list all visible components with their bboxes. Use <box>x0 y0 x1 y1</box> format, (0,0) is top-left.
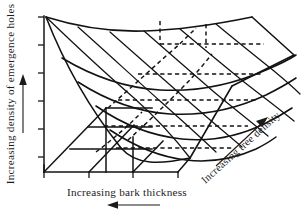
z-axis-label: Increasing density of emergence holes <box>4 4 16 185</box>
surface-mesh <box>46 17 300 162</box>
x-axis-label: Increasing bark thickness <box>67 186 187 198</box>
response-surface-plot: Increasing density of emergence holes In… <box>0 0 304 220</box>
x-axis-direction-arrow <box>107 201 160 209</box>
base-plane-grid <box>44 108 190 172</box>
figure-container: Increasing density of emergence holes In… <box>0 0 304 220</box>
x-axis-ticks <box>44 172 178 178</box>
z-axis-direction-arrow <box>19 74 27 133</box>
z-axis-ticks <box>38 17 44 157</box>
z-axis <box>38 16 44 172</box>
